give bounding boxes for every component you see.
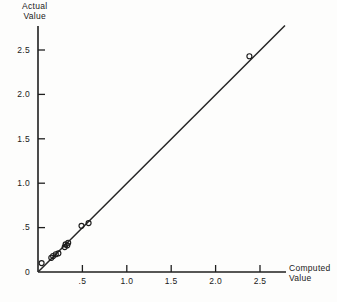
y-tick-label-0-5: .5 xyxy=(4,222,30,232)
x-tick-label-0-5: .5 xyxy=(69,276,95,286)
scatter-plot-figure: Actual Value Computed Value 2.5 2.0 1.5 … xyxy=(0,0,337,302)
y-tick-label-1-0: 1.0 xyxy=(4,178,30,188)
x-axis-title-line2: Value xyxy=(289,274,331,284)
cut-off-caption-strip: ­ ­ ­ ­ ­ ­ ­ ­ ­ ­ ­ ­ xyxy=(0,292,337,302)
data-point xyxy=(39,261,44,266)
x-tick-label-2-0: 2.0 xyxy=(203,276,229,286)
y-axis-title-line2: Value xyxy=(22,12,47,22)
y-tick-label-2-5: 2.5 xyxy=(4,45,30,55)
y-axis-title: Actual Value xyxy=(22,2,47,21)
data-point-group xyxy=(39,54,252,266)
x-tick-label-1-0: 1.0 xyxy=(114,276,140,286)
x-tick-label-2-5: 2.5 xyxy=(247,276,273,286)
x-axis-title: Computed Value xyxy=(289,264,331,283)
data-point xyxy=(247,54,252,59)
plot-canvas xyxy=(0,0,337,302)
x-tick-label-1-5: 1.5 xyxy=(158,276,184,286)
x-axis-ticks xyxy=(82,265,260,272)
y-tick-label-0: 0 xyxy=(4,267,30,277)
regression-fit-line xyxy=(39,26,286,272)
y-tick-label-2-0: 2.0 xyxy=(4,89,30,99)
cut-off-caption-text: ­ ­ ­ ­ ­ ­ ­ ­ ­ ­ ­ ­ xyxy=(26,292,337,300)
y-axis-ticks xyxy=(38,50,45,228)
y-tick-label-1-5: 1.5 xyxy=(4,134,30,144)
